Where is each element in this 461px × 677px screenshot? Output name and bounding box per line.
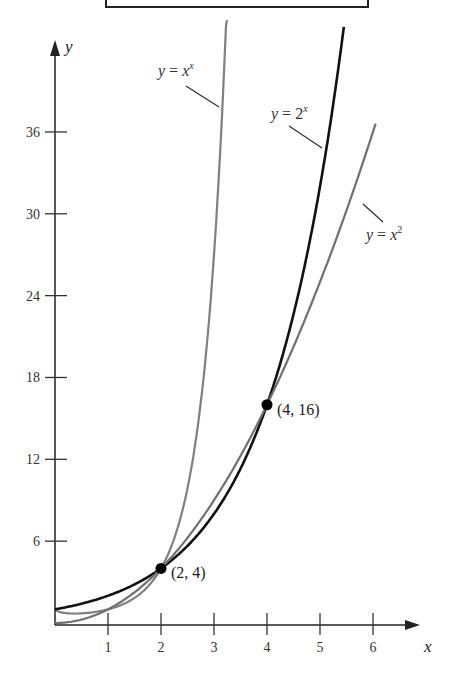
plot-area: x y 123456 61218243036 y = xx y = 2x y =… — [0, 0, 461, 677]
y-tick-label: 12 — [26, 452, 40, 467]
intersection-dot — [156, 563, 167, 574]
point-label: (4, 16) — [277, 401, 320, 419]
x-ticks: 123456 — [105, 613, 377, 655]
leader-x-to-x — [186, 86, 219, 107]
y-tick-label: 18 — [26, 370, 40, 385]
y-axis-label: y — [63, 37, 73, 56]
x-tick-label: 6 — [370, 640, 377, 655]
y-ticks: 61218243036 — [26, 125, 67, 549]
y-axis-arrow-icon — [50, 40, 60, 56]
label-x-squared: y = x2 — [364, 224, 402, 244]
x-tick-label: 3 — [211, 640, 218, 655]
y-tick-label: 36 — [26, 125, 40, 140]
curve-x-to-x — [56, 20, 227, 614]
y-tick-label: 30 — [26, 207, 40, 222]
intersection-points: (2, 4)(4, 16) — [156, 399, 320, 582]
x-axis-arrow-icon — [405, 620, 420, 630]
leader-2-to-x — [289, 126, 322, 148]
x-tick-label: 5 — [317, 640, 324, 655]
y-tick-label: 24 — [26, 289, 40, 304]
label-x-to-x: y = xx — [156, 60, 194, 80]
curves — [55, 20, 376, 623]
leader-x-squared — [363, 204, 383, 222]
x-axis-label: x — [423, 637, 432, 656]
curve-x-squared — [55, 124, 376, 623]
label-2-to-x: y = 2x — [269, 103, 308, 123]
point-label: (2, 4) — [171, 564, 206, 582]
x-tick-label: 1 — [105, 640, 112, 655]
intersection-dot — [262, 399, 273, 410]
x-tick-label: 4 — [264, 640, 271, 655]
x-tick-label: 2 — [158, 640, 165, 655]
y-tick-label: 6 — [33, 534, 40, 549]
